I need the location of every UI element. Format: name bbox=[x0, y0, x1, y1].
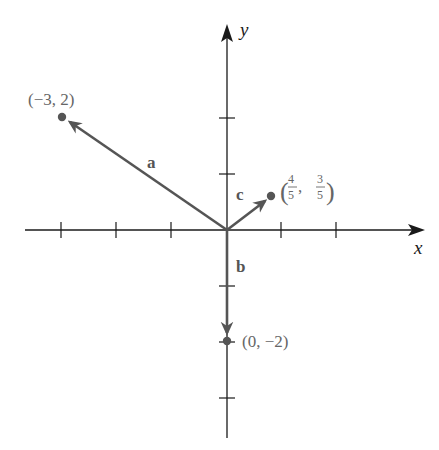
point-b-label: (0, −2) bbox=[242, 332, 288, 351]
point-c-dot bbox=[267, 192, 275, 200]
point-a-dot bbox=[58, 113, 66, 121]
point-a-label: (−3, 2) bbox=[28, 90, 74, 109]
diagram-canvas: x y a (−3, 2) c ( 4 bbox=[0, 0, 439, 450]
vector-a-label: a bbox=[147, 153, 156, 172]
x-axis-label: x bbox=[413, 237, 423, 258]
point-c-x-denominator: 5 bbox=[288, 188, 294, 202]
vector-c: c ( 4 5 , 3 5 ) bbox=[227, 172, 335, 230]
vector-a-line bbox=[70, 122, 227, 230]
point-b-dot bbox=[223, 337, 231, 345]
vector-b-label: b bbox=[236, 257, 245, 276]
vector-c-label: c bbox=[236, 185, 244, 204]
vector-c-line bbox=[227, 201, 265, 230]
point-c-y-denominator: 5 bbox=[317, 188, 323, 202]
vector-a: a (−3, 2) bbox=[28, 90, 227, 230]
point-c-comma: , bbox=[298, 177, 302, 196]
point-c-label: ( 4 5 , 3 5 ) bbox=[280, 172, 335, 206]
y-axis-label: y bbox=[238, 19, 249, 40]
vector-diagram: x y a (−3, 2) c ( 4 bbox=[0, 0, 439, 450]
point-c-x-numerator: 4 bbox=[288, 172, 294, 186]
point-c-close-paren: ) bbox=[326, 177, 335, 206]
vector-b: b (0, −2) bbox=[223, 230, 289, 351]
point-c-y-numerator: 3 bbox=[317, 172, 323, 186]
